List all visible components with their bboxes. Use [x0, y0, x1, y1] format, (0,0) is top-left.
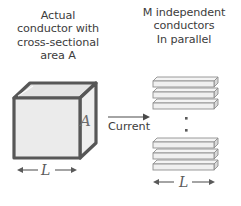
conductor-diagram: Actual conductor with cross-sectional ar…	[0, 0, 241, 206]
arrow-right-icon	[209, 179, 215, 185]
length-label-left: L	[41, 162, 50, 178]
cube-front-face	[14, 98, 80, 158]
conductor-bar	[153, 77, 218, 87]
conductor-bar	[153, 160, 218, 170]
vertical-ellipsis-icon	[185, 117, 188, 132]
area-label: A	[80, 112, 91, 130]
conductor-bar	[153, 88, 218, 98]
conductor-bar	[153, 99, 218, 109]
length-label-right: L	[179, 174, 188, 190]
conductor-bar	[153, 138, 218, 148]
conductor-bar-group-top	[153, 77, 218, 109]
conductor-bar-group-bottom	[153, 138, 218, 170]
current-label: Current	[108, 120, 150, 133]
arrow-right-icon	[71, 167, 77, 173]
conductor-bar	[153, 149, 218, 159]
diagram-graphics	[0, 0, 241, 206]
